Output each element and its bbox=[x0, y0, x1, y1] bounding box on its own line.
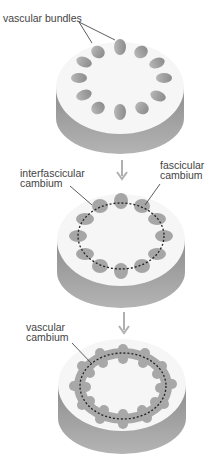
label-fascicular-cambium-l2: cambium bbox=[160, 170, 203, 181]
diagram-canvas bbox=[0, 0, 213, 461]
label-interfascicular-cambium-l2: cambium bbox=[20, 178, 63, 189]
label-vascular-bundles: vascular bundles bbox=[3, 13, 82, 24]
stem-disc-cambium-forming bbox=[57, 184, 185, 308]
stem-disc-primary bbox=[56, 22, 184, 154]
label-vascular-cambium-l2: cambium bbox=[26, 332, 69, 343]
arrow-down-icon bbox=[117, 160, 127, 179]
arrow-down-icon bbox=[119, 312, 129, 333]
stem-disc-vascular-cambium bbox=[58, 339, 186, 454]
